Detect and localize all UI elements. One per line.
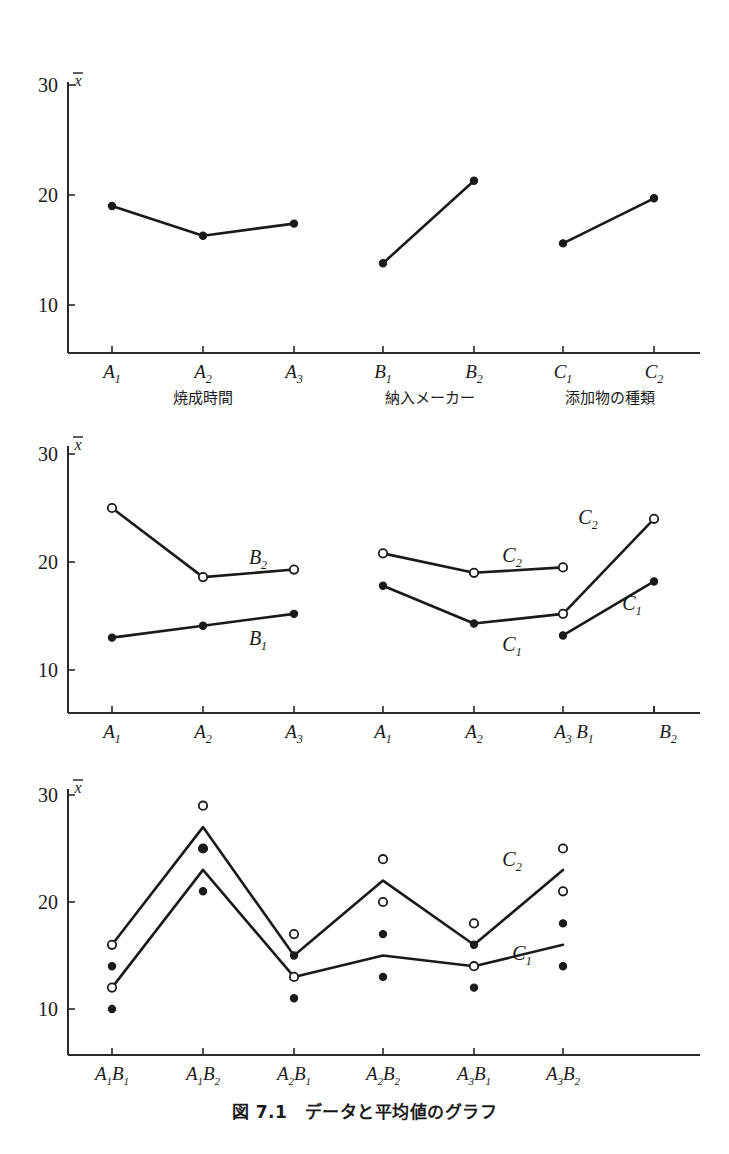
series-label-C1: C1 (512, 942, 531, 968)
observation-point (290, 930, 298, 938)
observation-point (290, 995, 297, 1002)
data-point-open (379, 549, 387, 557)
y-axis-tick-label: 30 (38, 443, 58, 465)
data-point-filled (650, 195, 657, 202)
axis-tick-label: C2 (645, 361, 664, 386)
axis-tick-label: A1 (101, 361, 121, 386)
y-axis-tick-label: 20 (38, 891, 58, 913)
data-point-filled (470, 177, 477, 184)
observation-point (379, 973, 386, 980)
data-line-factor-B (383, 181, 474, 264)
axis-tick-label: B1 (374, 361, 392, 386)
x-axis-labels: A1A2A3B1B2C1C2 (101, 361, 663, 386)
observation-point (379, 855, 387, 863)
data-point-filled (290, 610, 297, 617)
axis-tick-label: C1 (554, 361, 573, 386)
chart-raw-data-and-means: 102030xC2C1A1B1A1B2A2B1A2B2A3B1A3B2 (0, 765, 729, 1085)
y-axis-tick-label: 10 (38, 998, 58, 1020)
data-point-open (108, 504, 116, 512)
series-group (108, 504, 658, 641)
data-point-filled (108, 634, 115, 641)
x-axis-labels: A1A2A3A1A2A3B1B2 (101, 721, 677, 746)
axis-tick-label: A1 (372, 721, 392, 746)
data-line-C2-over-B (563, 519, 654, 614)
data-line-C1-over-A (383, 586, 563, 624)
observation-point (108, 963, 115, 970)
group-label: 添加物の種類 (565, 389, 655, 407)
axis-tick-label: A1B1 (93, 1063, 129, 1085)
axis-tick-label: B2 (659, 721, 677, 746)
observation-point (470, 962, 478, 970)
axis-tick-label: A3 (283, 721, 303, 746)
series-group (108, 802, 567, 1013)
y-axis-tick-label: 20 (38, 184, 58, 206)
observation-point (559, 844, 567, 852)
data-point-filled (559, 240, 566, 247)
y-axis-symbol-xbar: x (73, 436, 83, 453)
data-point-filled (470, 620, 477, 627)
observation-point (379, 931, 386, 938)
series-label-C1-over-B: C1 (622, 592, 641, 618)
x-axis-labels: A1B1A1B2A2B1A2B2A3B1A3B2 (93, 1063, 581, 1085)
axis-tick-label: A3 (552, 721, 572, 746)
observation-point (199, 802, 207, 810)
y-axis-tick-label: 10 (38, 294, 58, 316)
observation-point (470, 919, 478, 927)
observation-point (470, 984, 477, 991)
observation-point (559, 963, 566, 970)
series-label-C2-over-B: C2 (578, 506, 597, 532)
observation-point (379, 898, 387, 906)
observation-point (108, 941, 116, 949)
series-label-C2-over-A: C2 (502, 544, 521, 570)
observation-point (108, 1005, 115, 1012)
data-point-open (650, 515, 658, 523)
observation-point (290, 952, 297, 959)
axis-tick-label: A1B2 (184, 1063, 221, 1085)
data-point-filled (559, 632, 566, 639)
axis-tick-label: A3B1 (455, 1063, 491, 1085)
data-point-open (559, 610, 567, 618)
figure-caption: 図 7.1 データと平均値のグラフ (0, 1098, 729, 1123)
data-point-filled (650, 578, 657, 585)
observation-point (470, 941, 477, 948)
series-label-B1: B1 (249, 627, 267, 653)
figure-7-1: 102030xA1A2A3B1B2C1C2焼成時間納入メーカー添加物の種類 10… (0, 0, 729, 1154)
data-point-filled (199, 232, 206, 239)
observation-point (199, 845, 206, 852)
chart-main-effects: 102030xA1A2A3B1B2C1C2焼成時間納入メーカー添加物の種類 (0, 0, 729, 420)
x-axis-group-labels: 焼成時間納入メーカー添加物の種類 (173, 389, 655, 407)
data-point-filled (379, 582, 386, 589)
chart-two-factor-interactions: 102030xB2B1C2C1C2C1A1A2A3A1A2A3B1B2 (0, 420, 729, 760)
mean-line-C2 (112, 827, 563, 955)
axis-tick-label: A3B2 (544, 1063, 581, 1085)
series-labels: B2B1C2C1C2C1 (249, 506, 642, 659)
y-axis-tick-label: 30 (38, 74, 58, 96)
observation-point (290, 973, 298, 981)
axis-tick-label: A2B1 (275, 1063, 311, 1085)
data-line-factor-C (563, 198, 654, 243)
data-point-filled (379, 260, 386, 267)
y-axis-tick-label: 30 (38, 784, 58, 806)
axis-tick-label: B2 (465, 361, 483, 386)
observation-point (199, 888, 206, 895)
data-point-open (199, 573, 207, 581)
axis-tick-label: A2 (192, 361, 212, 386)
data-point-open (290, 565, 298, 573)
data-point-open (470, 569, 478, 577)
data-point-open (559, 563, 567, 571)
svg-text:x: x (73, 779, 81, 796)
y-axis-tick-label: 10 (38, 659, 58, 681)
y-axis-symbol-xbar: x (73, 72, 83, 89)
svg-text:x: x (73, 72, 81, 89)
axis-tick-label: A2 (192, 721, 212, 746)
axes: 102030x (38, 779, 700, 1055)
mean-line-C1 (112, 870, 563, 988)
series-group (108, 177, 657, 267)
axis-tick-label: A2 (463, 721, 483, 746)
axes: 102030x (38, 72, 700, 353)
series-label-B2: B2 (249, 546, 267, 572)
y-axis-tick-label: 20 (38, 551, 58, 573)
observation-point (559, 887, 567, 895)
data-point-filled (108, 202, 115, 209)
data-point-filled (290, 220, 297, 227)
